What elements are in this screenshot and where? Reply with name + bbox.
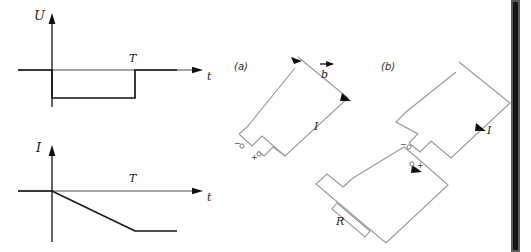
circuit-a-loop-lower — [258, 147, 285, 156]
circuit-b-current-label: I — [486, 124, 492, 137]
current-plot — [18, 145, 203, 242]
voltage-x-axis-label: t — [207, 70, 212, 83]
circuit-b-terminal-positive — [410, 162, 414, 166]
current-x-axis-arrow — [192, 188, 203, 194]
scan-edge-band — [513, 2, 518, 250]
circuit-a-arrow-top — [291, 57, 302, 64]
current-waveform — [18, 191, 177, 231]
voltage-y-axis-label: U — [34, 8, 46, 23]
circuit-a-caption: (a) — [234, 61, 248, 72]
circuit-a-positive-sign: + — [251, 153, 258, 162]
circuit-b-negative-sign: − — [400, 140, 407, 149]
current-period-label: T — [129, 172, 138, 185]
circuit-a-negative-sign: − — [234, 139, 241, 148]
magnetic-field-vector-label: b — [321, 68, 328, 81]
circuit-a-current-label: I — [313, 120, 319, 133]
circuit-b-upper-loop-left — [396, 72, 456, 143]
circuit-b-upper-loop-right — [409, 62, 510, 158]
circuit-a-loop-left — [239, 68, 295, 134]
circuit-b-positive-sign: + — [417, 161, 424, 170]
circuit-a-loop-upper — [239, 57, 348, 156]
voltage-waveform — [18, 70, 177, 98]
circuit-b-lower-loop-left — [343, 147, 415, 187]
voltage-y-axis-arrow — [49, 13, 56, 24]
voltage-x-axis-arrow — [192, 67, 203, 73]
voltage-period-label: T — [129, 52, 138, 65]
circuit-b-lower-loop-right — [316, 156, 448, 243]
current-y-axis-arrow — [49, 145, 56, 156]
current-x-axis-label: t — [207, 191, 212, 204]
circuit-b — [316, 62, 510, 243]
circuit-a — [239, 57, 351, 156]
circuit-b-caption: (b) — [381, 61, 395, 72]
resistor-label: R — [335, 215, 344, 228]
figure-page: U t T I t T (a) (b) b I I R − + − + — [0, 0, 531, 252]
voltage-plot — [18, 13, 203, 107]
figure-canvas: U t T I t T (a) (b) b I I R − + − + — [0, 0, 531, 252]
current-y-axis-label: I — [35, 140, 42, 155]
circuit-a-arrow-right — [340, 93, 351, 101]
circuit-b-terminal-negative — [407, 145, 411, 149]
